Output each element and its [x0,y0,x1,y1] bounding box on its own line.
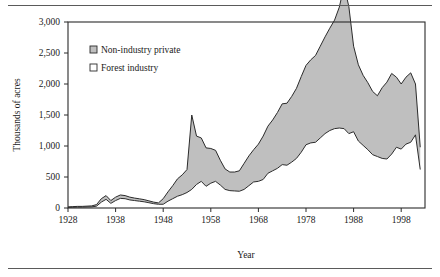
y-axis-title: Thousands of acres [12,78,22,152]
y-axis-tick-label: 2,500 [39,48,61,58]
bottom-horizontal-rule [8,268,432,269]
x-axis-tick-label: 1928 [59,215,78,225]
x-axis-tick-label: 1948 [154,215,173,225]
x-axis: 19281938194819581968197819881998 [59,208,411,225]
x-axis-title: Year [237,250,255,260]
y-axis-tick-label: 1,500 [39,110,61,120]
x-axis-tick-label: 1958 [201,215,220,225]
area-chart: 05001,0001,5002,0002,5003,000 1928193819… [0,0,440,277]
top-horizontal-rule [8,5,432,6]
y-axis-tick-label: 0 [55,203,60,213]
x-axis-tick-label: 1968 [249,215,268,225]
x-axis-tick-label: 1978 [297,215,316,225]
x-axis-tick-label: 1938 [106,215,125,225]
legend-label-forest-industry: Forest industry [101,63,159,73]
y-axis: 05001,0001,5002,0002,5003,000 [39,17,68,213]
y-axis-tick-label: 500 [46,172,61,182]
x-axis-tick-label: 1998 [392,215,411,225]
x-axis-tick-label: 1988 [344,215,363,225]
figure-container: 05001,0001,5002,0002,5003,000 1928193819… [0,0,440,277]
y-axis-tick-label: 2,000 [39,79,61,89]
y-axis-tick-label: 3,000 [39,17,61,27]
legend-swatch-non-industry-private [90,46,97,53]
legend-swatch-forest-industry [90,64,97,71]
legend-label-non-industry-private: Non-industry private [101,45,180,55]
y-axis-tick-label: 1,000 [39,141,61,151]
